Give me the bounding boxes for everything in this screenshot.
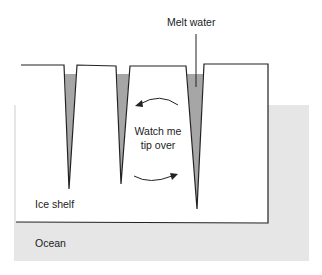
watch-me-line1: Watch me — [123, 125, 193, 138]
ice-shelf-label: Ice shelf — [35, 198, 74, 211]
ocean-label: Ocean — [35, 237, 66, 250]
watch-me-label: Watch me tip over — [123, 125, 193, 152]
watch-me-line2: tip over — [123, 139, 193, 152]
melt-water-label: Melt water — [167, 16, 215, 29]
